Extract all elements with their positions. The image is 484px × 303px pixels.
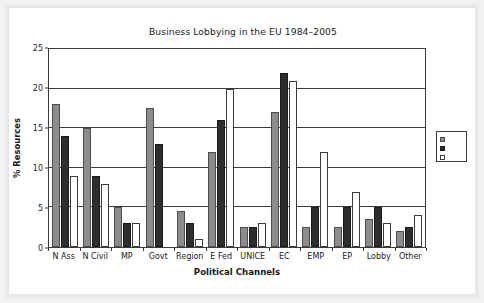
bar	[146, 108, 154, 247]
x-tick-mark	[143, 248, 144, 251]
bar	[320, 152, 328, 247]
bar	[396, 231, 404, 247]
bar	[52, 104, 60, 247]
x-tick-label: N Ass	[48, 252, 80, 261]
x-tick-label: Govt	[143, 252, 175, 261]
y-tick-label: 5	[38, 204, 43, 213]
x-axis-label: Political Channels	[48, 267, 426, 277]
bar-group	[300, 49, 331, 247]
x-tick-mark	[80, 248, 81, 251]
y-tick-label: 10	[33, 164, 43, 173]
bar	[365, 219, 373, 247]
x-tick-label: EC	[269, 252, 301, 261]
bar-group	[49, 49, 80, 247]
chart-card: Business Lobbying in the EU 1984–2005 % …	[8, 7, 476, 295]
x-axis-tick-labels: N AssN CivilMPGovtRegionE FedUNICEECEMPE…	[48, 252, 426, 261]
x-tick-mark	[300, 248, 301, 251]
y-tick-label: 0	[38, 244, 43, 253]
bar-group	[174, 49, 205, 247]
bar	[217, 120, 225, 247]
bar	[240, 227, 248, 247]
legend-swatch-icon	[440, 155, 445, 160]
bar	[92, 176, 100, 247]
bar	[258, 223, 266, 247]
bar	[405, 227, 413, 247]
x-tick-label: EP	[332, 252, 364, 261]
x-tick-label: UNICE	[237, 252, 269, 261]
legend-entry	[440, 153, 466, 161]
legend-entry	[440, 135, 466, 143]
y-axis-label: % Resources	[12, 118, 22, 178]
bar	[352, 192, 360, 247]
plot-area	[48, 48, 426, 248]
x-tick-label: Lobby	[363, 252, 395, 261]
bar-group	[143, 49, 174, 247]
x-tick-label: Region	[174, 252, 206, 261]
chart-title: Business Lobbying in the EU 1984–2005	[9, 26, 477, 37]
bar	[208, 152, 216, 247]
bar	[226, 89, 234, 247]
bar-group	[206, 49, 237, 247]
x-tick-label: E Fed	[206, 252, 238, 261]
y-tick-mark	[45, 88, 48, 89]
x-tick-mark	[237, 248, 238, 251]
legend-swatch-icon	[440, 146, 445, 151]
bar	[83, 128, 91, 247]
bar	[383, 223, 391, 247]
bar-group	[112, 49, 143, 247]
y-tick-mark	[45, 208, 48, 209]
x-tick-mark	[48, 248, 49, 251]
legend-swatch-icon	[440, 137, 445, 142]
x-tick-mark	[395, 248, 396, 251]
bar-group	[394, 49, 425, 247]
bar	[132, 223, 140, 247]
chart-figure: Business Lobbying in the EU 1984–2005 % …	[0, 0, 484, 303]
bar-group	[268, 49, 299, 247]
bar	[289, 81, 297, 247]
x-tick-mark	[426, 248, 427, 251]
bar	[374, 207, 382, 247]
bar	[177, 211, 185, 247]
bar-group	[237, 49, 268, 247]
x-tick-mark	[332, 248, 333, 251]
legend-entry	[440, 144, 466, 152]
x-tick-mark	[206, 248, 207, 251]
bar	[271, 112, 279, 247]
bar	[61, 136, 69, 247]
bar	[123, 223, 131, 247]
y-tick-label: 15	[33, 124, 43, 133]
bar	[280, 73, 288, 247]
bar	[311, 207, 319, 247]
bar-group	[80, 49, 111, 247]
bar	[101, 184, 109, 247]
x-tick-label: MP	[111, 252, 143, 261]
bar-group	[331, 49, 362, 247]
bar	[249, 227, 257, 247]
x-tick-mark	[174, 248, 175, 251]
bar	[186, 223, 194, 247]
y-tick-mark	[45, 128, 48, 129]
y-tick-label: 20	[33, 84, 43, 93]
y-tick-label: 25	[33, 44, 43, 53]
bar	[414, 215, 422, 247]
chart-legend	[436, 131, 467, 162]
x-tick-label: EMP	[300, 252, 332, 261]
bar	[334, 227, 342, 247]
y-tick-mark	[45, 168, 48, 169]
bar	[114, 207, 122, 247]
plot-wrapper: % Resources 0510152025	[48, 48, 426, 248]
y-tick-mark	[45, 48, 48, 49]
bar	[70, 176, 78, 247]
bar	[155, 144, 163, 247]
bar-groups	[49, 49, 425, 247]
bar	[195, 239, 203, 247]
x-tick-mark	[269, 248, 270, 251]
x-tick-mark	[111, 248, 112, 251]
bar	[302, 227, 310, 247]
x-tick-label: N Civil	[80, 252, 112, 261]
x-tick-mark	[363, 248, 364, 251]
bar	[343, 207, 351, 247]
x-tick-label: Other	[395, 252, 427, 261]
bar-group	[362, 49, 393, 247]
